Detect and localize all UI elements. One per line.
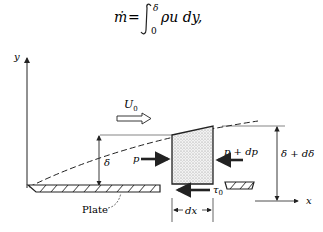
plate — [28, 185, 160, 192]
plate-label: Plate — [82, 204, 108, 215]
y-axis-label: y — [13, 51, 20, 62]
pressure-right-label: p + dp — [224, 146, 259, 157]
shear-stress-label: τ0 — [213, 184, 223, 197]
integral-lower-limit: 0 — [151, 26, 157, 36]
delta-label: δ — [104, 157, 110, 168]
integral-upper-limit: δ — [153, 3, 158, 13]
dx-label: dx — [185, 205, 197, 216]
control-volume — [172, 126, 213, 184]
boundary-layer-diagram: ṁ = δ 0 ρu dy, y x U0 δ δ + dδ — [0, 0, 323, 232]
plate-leader-line — [108, 193, 121, 208]
plate-right-segment — [225, 182, 254, 189]
mdot-symbol: ṁ — [114, 9, 127, 25]
integral-sign — [141, 4, 151, 33]
free-stream-label: U0 — [124, 98, 138, 113]
delta-plus-d-delta-label: δ + dδ — [281, 148, 314, 159]
mass-flow-equation: ṁ = δ 0 ρu dy, — [114, 3, 202, 36]
equals-sign: = — [128, 9, 140, 25]
integrand: ρu dy, — [160, 9, 202, 25]
pressure-left-label: p — [133, 153, 140, 164]
x-axis-label: x — [306, 195, 312, 206]
free-stream-arrow — [117, 113, 151, 124]
